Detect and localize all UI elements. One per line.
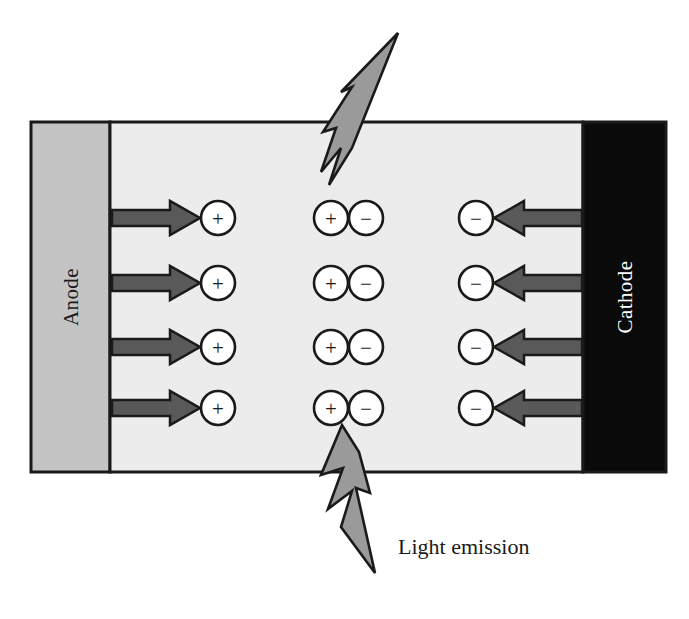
charge-symbol: + xyxy=(212,272,224,296)
electron-carrier-2: − xyxy=(459,266,493,300)
charge-symbol: + xyxy=(325,397,337,421)
exciton-positive-2: + xyxy=(314,266,348,300)
charge-symbol: − xyxy=(470,272,482,296)
charge-symbol: − xyxy=(360,272,372,296)
charge-symbol: − xyxy=(360,336,372,360)
electron-carrier-4: − xyxy=(459,391,493,425)
hole-carrier-1: + xyxy=(201,201,235,235)
diagram-root: ++−−++−−++−−++−− AnodeCathode Light emis… xyxy=(0,0,689,619)
charge-symbol: + xyxy=(212,336,224,360)
cathode-label: Cathode xyxy=(613,261,637,334)
hole-carrier-4: + xyxy=(201,391,235,425)
charge-symbol: + xyxy=(325,336,337,360)
exciton-positive-4: + xyxy=(314,391,348,425)
charge-symbol: + xyxy=(212,397,224,421)
charge-symbol: + xyxy=(325,207,337,231)
charge-symbol: − xyxy=(470,207,482,231)
charge-symbol: + xyxy=(212,207,224,231)
anode-label: Anode xyxy=(59,268,83,326)
light-emission-caption: Light emission xyxy=(398,534,529,559)
charge-symbol: − xyxy=(470,397,482,421)
charge-symbol: − xyxy=(360,397,372,421)
hole-carrier-2: + xyxy=(201,266,235,300)
electron-carrier-3: − xyxy=(459,330,493,364)
electron-carrier-1: − xyxy=(459,201,493,235)
charge-symbol: − xyxy=(360,207,372,231)
exciton-negative-4: − xyxy=(349,391,383,425)
hole-carrier-3: + xyxy=(201,330,235,364)
exciton-negative-3: − xyxy=(349,330,383,364)
device-diagram-canvas: ++−−++−−++−−++−− AnodeCathode Light emis… xyxy=(0,0,689,619)
exciton-negative-1: − xyxy=(349,201,383,235)
charge-symbol: − xyxy=(470,336,482,360)
charge-symbol: + xyxy=(325,272,337,296)
exciton-positive-3: + xyxy=(314,330,348,364)
device-stack xyxy=(31,122,666,472)
exciton-positive-1: + xyxy=(314,201,348,235)
exciton-negative-2: − xyxy=(349,266,383,300)
